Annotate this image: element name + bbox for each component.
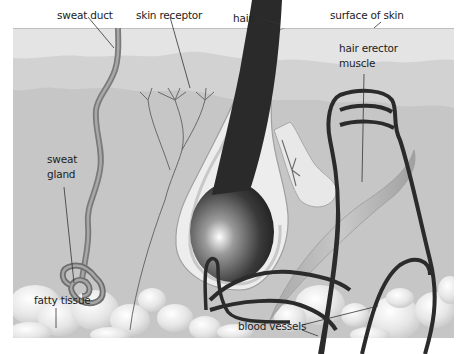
label-surface-of-skin: surface of skin [330, 9, 404, 21]
label-sweat-gland-1: sweat [47, 153, 77, 165]
label-hair: hair [233, 12, 253, 24]
hair-bulb [190, 182, 274, 282]
label-sweat-duct: sweat duct [57, 9, 113, 21]
label-sweat-gland-2: gland [47, 168, 75, 180]
label-skin-receptor: skin receptor [136, 9, 202, 21]
label-hair-erector-muscle-2: muscle [339, 57, 375, 69]
label-fatty-tissue: fatty tissue [34, 294, 91, 306]
label-blood-vessels: blood vessels [238, 320, 306, 332]
label-hair-erector-muscle-1: hair erector [339, 42, 398, 54]
